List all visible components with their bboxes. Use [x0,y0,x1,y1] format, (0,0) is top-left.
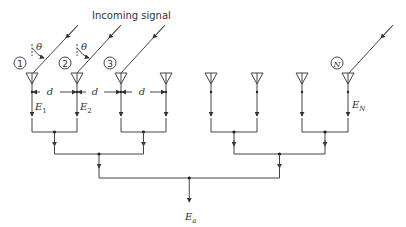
combiner-level2-1 [55,140,144,156]
combiner-level1-3 [211,118,257,134]
theta-label-1: θ [36,41,42,52]
theta-label-2: θ [81,41,87,52]
element-number-3: 3 [107,59,113,69]
incoming-signal-label: Incoming signal [92,10,171,21]
combiner-level3 [99,164,280,180]
signal-ray-n-arrow [381,25,393,38]
field-label-en: EN [351,99,366,113]
signal-ray-3-arrow [153,25,165,38]
output-label-ea: Ea [184,211,197,225]
combiner-level1-4 [302,118,348,134]
signal-ray-1-arrow [66,25,78,38]
element-number-2: 2 [62,59,68,69]
element-number-n: N [333,60,342,69]
antenna-6 [251,73,263,116]
field-label-e1: E1 [34,101,47,115]
antenna-3 [115,73,127,116]
combiner-tree [32,118,348,202]
spacing-dimensions: d d d [33,86,165,97]
antenna-array-diagram: Incoming signal θ θ 1 2 3 N d [0,0,406,227]
element-numbers: 1 2 3 N [14,57,343,69]
spacing-label-1: d [47,86,53,97]
antenna-5 [205,73,217,116]
combiner-level1-2 [121,118,166,134]
spacing-label-3: d [139,86,145,97]
combiner-level2-2 [234,140,325,156]
antenna-4 [160,73,172,116]
spacing-label-2: d [92,86,98,97]
combiner-level1-1 [32,118,77,134]
field-label-e2: E2 [79,101,92,115]
signal-ray-2-arrow [109,25,121,38]
antenna-elements [26,73,354,116]
antenna-7 [296,73,308,116]
element-number-1: 1 [17,59,23,69]
